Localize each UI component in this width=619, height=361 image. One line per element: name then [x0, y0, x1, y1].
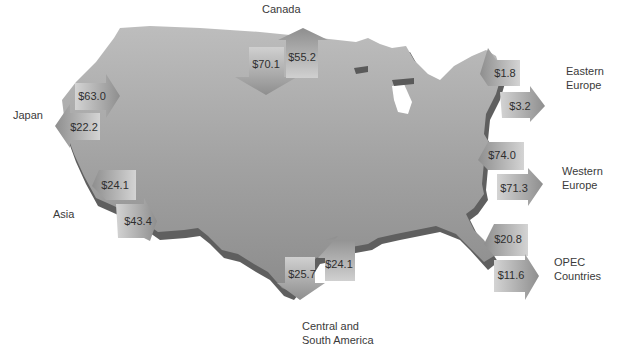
eastern-europe-label-line1: Eastern	[566, 64, 604, 78]
western-europe-export-arrow: $71.3	[497, 168, 543, 206]
opec-label-line2: Countries	[554, 269, 601, 283]
opec-export-value: $11.6	[498, 269, 525, 281]
canada-export-value: $55.2	[288, 51, 316, 63]
latin-america-label: Central and South America	[302, 319, 374, 347]
western-europe-label: Western Europe	[562, 164, 603, 192]
latin-america-label-line1: Central and	[302, 319, 374, 333]
western-europe-label-line1: Western	[562, 164, 603, 178]
opec-export-arrow: $11.6	[494, 254, 539, 300]
eastern-europe-label: Eastern Europe	[566, 64, 604, 92]
latin-america-import-value: $24.1	[325, 258, 353, 270]
eastern-europe-import-value: $1.8	[494, 67, 515, 79]
western-europe-export-value: $71.3	[500, 182, 528, 194]
japan-label: Japan	[13, 108, 43, 122]
opec-import-arrow: $20.8	[484, 224, 528, 256]
japan-export-value: $22.2	[70, 121, 98, 133]
asia-export-value: $24.1	[101, 179, 129, 191]
canada-import-value: $70.1	[252, 58, 280, 70]
opec-label-line1: OPEC	[554, 255, 601, 269]
trade-flow-map: $70.1 $55.2 $63.0 $22.2 $24.1 $43.4 $1.8…	[0, 0, 619, 361]
latin-america-label-line2: South America	[302, 333, 374, 347]
japan-import-value: $63.0	[78, 90, 106, 102]
opec-label: OPEC Countries	[554, 255, 601, 283]
latin-america-export-value: $25.7	[288, 268, 316, 280]
opec-import-value: $20.8	[494, 233, 522, 245]
western-europe-import-value: $74.0	[488, 149, 516, 161]
asia-import-value: $43.4	[124, 215, 152, 227]
asia-label: Asia	[53, 207, 74, 221]
eastern-europe-export-arrow: $3.2	[500, 86, 545, 122]
eastern-europe-export-value: $3.2	[509, 100, 530, 112]
canada-label: Canada	[262, 2, 301, 16]
eastern-europe-label-line2: Europe	[566, 78, 604, 92]
western-europe-label-line2: Europe	[562, 178, 603, 192]
